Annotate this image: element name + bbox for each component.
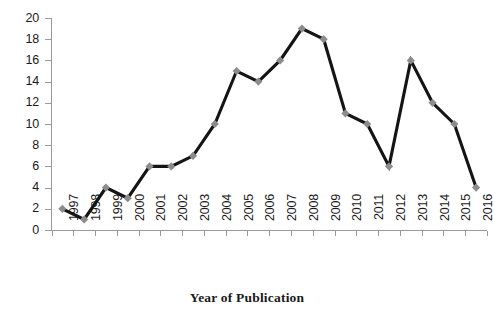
x-axis-tick-label: 2009 [330,194,343,240]
x-axis-tick-label: 2011 [373,194,386,240]
data-point-marker [211,120,219,128]
series-plot [0,0,494,316]
data-point-marker [320,35,328,43]
x-axis-tick-label: 2007 [286,194,299,240]
x-axis-tick-label: 2000 [134,194,147,240]
x-axis-tick [52,231,53,236]
y-axis-tick [45,166,51,167]
line-chart: 02468101214161820 1997199819992000200120… [0,0,494,316]
x-axis-tick-label: 2016 [482,194,494,240]
data-point-marker [102,184,110,192]
y-axis-tick [45,39,51,40]
y-axis-tick [45,145,51,146]
y-axis-tick-label: 0 [0,224,39,237]
data-point-marker [58,205,66,213]
data-point-marker [80,215,88,223]
x-axis-tick-label: 2010 [351,194,364,240]
x-axis-tick-label: 2001 [155,194,168,240]
x-axis-tick-label: 2002 [177,194,190,240]
data-point-marker [276,56,284,64]
y-axis-tick [45,103,51,104]
x-axis-tick-label: 1998 [90,194,103,240]
y-axis-tick-label: 4 [0,181,39,194]
y-axis-tick-label: 6 [0,160,39,173]
y-axis-tick-label: 12 [0,96,39,109]
y-axis-tick-label: 20 [0,12,39,25]
y-axis-tick [45,209,51,210]
data-point-marker [472,184,480,192]
x-axis-tick-label: 2015 [460,194,473,240]
x-axis-tick-label: 2008 [308,194,321,240]
data-point-marker [450,120,458,128]
y-axis-tick [45,18,51,19]
data-point-marker [189,152,197,160]
data-point-marker [385,162,393,170]
y-axis-tick [45,230,51,231]
data-point-marker [407,56,415,64]
x-axis-tick-label: 1997 [68,194,81,240]
data-point-marker [145,162,153,170]
y-axis-line [51,18,52,231]
data-point-marker [428,99,436,107]
x-axis-tick-label: 2005 [243,194,256,240]
y-axis-tick-label: 10 [0,118,39,131]
data-point-marker [363,120,371,128]
x-axis-tick-label: 2004 [221,194,234,240]
y-axis-tick [45,60,51,61]
data-point-marker [298,25,306,33]
data-point-marker [167,162,175,170]
data-point-marker [254,78,262,86]
x-axis-tick-label: 2012 [395,194,408,240]
x-axis-tick-label: 2014 [439,194,452,240]
series-line [62,29,476,220]
y-axis-tick-label: 14 [0,75,39,88]
x-axis-title: Year of Publication [0,290,494,306]
x-axis-tick-label: 2006 [264,194,277,240]
y-axis-tick-label: 2 [0,202,39,215]
y-axis-tick-label: 8 [0,139,39,152]
y-axis-tick-label: 16 [0,54,39,67]
data-point-marker [341,109,349,117]
x-axis-tick-label: 2003 [199,194,212,240]
x-axis-tick-label: 2013 [417,194,430,240]
x-axis-tick-label: 1999 [112,194,125,240]
data-point-marker [232,67,240,75]
y-axis-tick [45,188,51,189]
y-axis-tick [45,124,51,125]
y-axis-tick-label: 18 [0,33,39,46]
y-axis-tick [45,82,51,83]
